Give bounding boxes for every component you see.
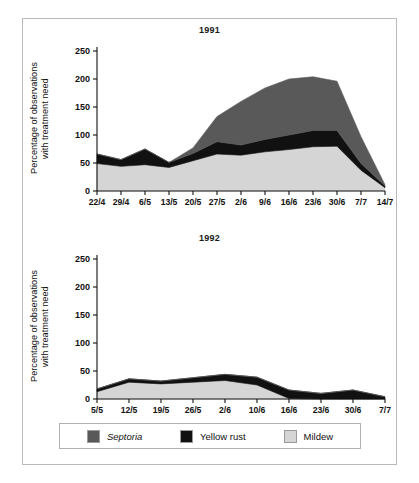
x-tick-label: 2/6 [235,197,247,207]
chart-legend: Septoria Yellow rust Mildew [59,423,361,449]
x-tick-label: 10/6 [249,405,266,415]
y-tick-label: 0 [85,186,90,196]
x-tick-label: 16/6 [281,405,298,415]
x-tick-label: 6/5 [139,197,151,207]
y-tick-label: 150 [75,310,90,320]
y-axis-label-1991: Percentage of observations with treatmen… [29,41,50,196]
x-tick-label: 7/7 [355,197,367,207]
y-tick-label: 250 [75,46,90,56]
y-tick-label: 200 [75,282,90,292]
x-tick-label: 12/5 [121,405,138,415]
x-tick-label: 19/5 [153,405,170,415]
x-tick-label: 26/5 [185,405,202,415]
y-tick-label: 100 [75,130,90,140]
chart-plot-1992: 0501001502002505/512/519/526/52/610/616/… [53,237,393,427]
x-tick-label: 22/4 [89,197,106,207]
legend-item-yellow-rust: Yellow rust [180,430,246,443]
x-tick-label: 23/6 [305,197,322,207]
legend-label-yellow-rust: Yellow rust [200,431,246,442]
x-tick-label: 9/6 [259,197,271,207]
y-tick-label: 50 [80,158,90,168]
x-tick-label: 7/7 [379,405,391,415]
legend-item-mildew: Mildew [284,430,334,443]
x-tick-label: 30/6 [345,405,362,415]
y-tick-label: 100 [75,338,90,348]
legend-swatch-yellow-rust [180,430,193,443]
x-tick-label: 20/5 [185,197,202,207]
legend-label-mildew: Mildew [304,431,334,442]
legend-swatch-mildew [284,430,297,443]
legend-item-septoria: Septoria [87,430,142,443]
x-tick-label: 13/5 [161,197,178,207]
y-tick-label: 0 [85,394,90,404]
x-tick-label: 16/6 [281,197,298,207]
legend-label-septoria: Septoria [107,431,142,442]
x-tick-label: 30/6 [329,197,346,207]
y-tick-label: 150 [75,102,90,112]
x-tick-label: 27/5 [209,197,226,207]
figure-frame: 1991 Percentage of observations with tre… [22,18,397,465]
legend-swatch-septoria [87,430,100,443]
y-tick-label: 50 [80,366,90,376]
y-tick-label: 200 [75,74,90,84]
x-tick-label: 5/5 [91,405,103,415]
x-tick-label: 29/4 [113,197,130,207]
x-tick-label: 14/7 [377,197,393,207]
x-tick-label: 23/6 [313,405,330,415]
y-tick-label: 250 [75,254,90,264]
x-tick-label: 2/6 [219,405,231,415]
y-axis-label-1992: Percentage of observations with treatmen… [29,249,50,404]
chart-plot-1991: 05010015020025022/429/46/513/520/527/52/… [53,29,393,219]
